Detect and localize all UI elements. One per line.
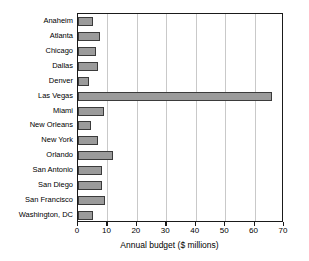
- bar: [78, 136, 98, 145]
- gridline: [137, 14, 138, 221]
- bar: [78, 211, 93, 220]
- bar: [78, 107, 104, 116]
- bar: [78, 92, 272, 101]
- gridline: [107, 14, 108, 221]
- y-axis-label: Anaheim: [0, 16, 73, 25]
- y-axis-label: San Francisco: [0, 195, 73, 204]
- x-axis-ticks: 010203040506070: [77, 222, 283, 236]
- y-axis-label: Dallas: [0, 61, 73, 70]
- y-axis-category-labels: AnaheimAtlantaChicagoDallasDenverLas Veg…: [0, 13, 73, 222]
- x-axis-title: Annual budget ($ millions): [0, 240, 309, 250]
- y-axis-label: Atlanta: [0, 31, 73, 40]
- gridline: [225, 14, 226, 221]
- bar: [78, 181, 102, 190]
- gridline: [196, 14, 197, 221]
- bar: [78, 62, 98, 71]
- x-tick-label: 20: [123, 226, 149, 236]
- gridline: [166, 14, 167, 221]
- y-axis-label: Orlando: [0, 150, 73, 159]
- bar: [78, 32, 100, 41]
- bar: [78, 151, 113, 160]
- y-axis-label: San Diego: [0, 180, 73, 189]
- x-tick-label: 60: [241, 226, 267, 236]
- y-axis-label: Washington, DC: [0, 210, 73, 219]
- x-tick-label: 50: [211, 226, 237, 236]
- x-tick-label: 30: [152, 226, 178, 236]
- plot-area: [77, 13, 283, 222]
- bar-chart: AnaheimAtlantaChicagoDallasDenverLas Veg…: [0, 0, 309, 261]
- bar: [78, 196, 105, 205]
- y-axis-label: Miami: [0, 106, 73, 115]
- x-tick-label: 40: [182, 226, 208, 236]
- x-tick-label: 10: [93, 226, 119, 236]
- x-tick-label: 70: [270, 226, 296, 236]
- bar: [78, 77, 89, 86]
- y-axis-label: Denver: [0, 76, 73, 85]
- bar: [78, 121, 91, 130]
- bar: [78, 47, 96, 56]
- bar: [78, 17, 93, 26]
- y-axis-label: Las Vegas: [0, 91, 73, 100]
- y-axis-label: New Orleans: [0, 120, 73, 129]
- y-axis-label: New York: [0, 135, 73, 144]
- y-axis-label: San Antonio: [0, 165, 73, 174]
- y-axis-label: Chicago: [0, 46, 73, 55]
- gridline: [255, 14, 256, 221]
- bar: [78, 166, 102, 175]
- x-tick-label: 0: [64, 226, 90, 236]
